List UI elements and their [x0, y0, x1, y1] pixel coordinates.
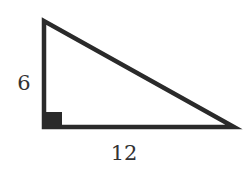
horizontal-leg-label: 12 [111, 141, 138, 165]
right-triangle [44, 21, 234, 127]
right-angle-marker [44, 112, 62, 127]
vertical-leg-label: 6 [17, 71, 30, 95]
triangle-diagram: 6 12 [0, 0, 246, 171]
